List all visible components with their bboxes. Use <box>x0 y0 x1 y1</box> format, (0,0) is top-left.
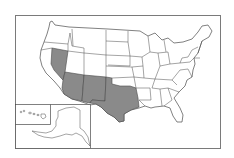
state-new-mexico <box>82 75 106 103</box>
inset-region <box>16 105 91 149</box>
us-map <box>0 0 234 158</box>
